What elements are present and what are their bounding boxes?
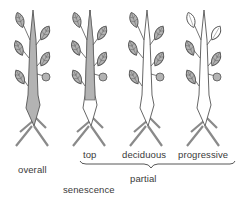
label-overall: overall bbox=[18, 164, 47, 175]
label-progressive: progressive bbox=[178, 149, 228, 160]
label-top: top bbox=[83, 149, 97, 160]
label-partial: partial bbox=[130, 173, 157, 184]
label-deciduous: deciduous bbox=[122, 149, 166, 160]
plant-overall bbox=[12, 10, 52, 146]
plant-top bbox=[69, 10, 109, 146]
label-senescence: senescence bbox=[63, 184, 115, 195]
plant-deciduous bbox=[126, 10, 166, 146]
partial-brace bbox=[80, 161, 235, 168]
plant-progressive bbox=[183, 10, 223, 146]
